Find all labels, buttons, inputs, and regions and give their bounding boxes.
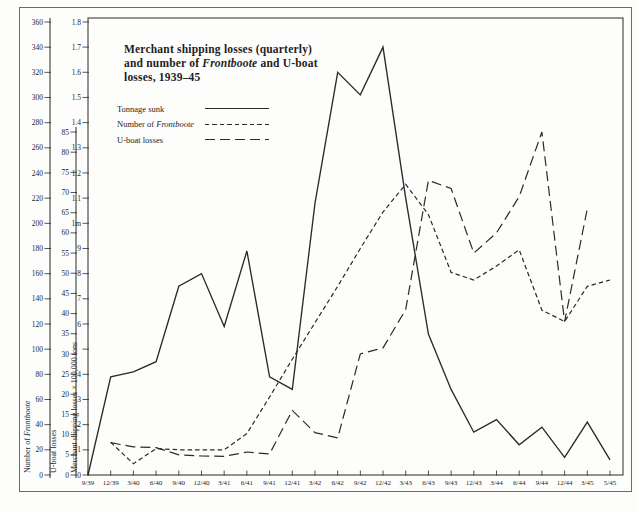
merchant-tick-label: 1.2 — [72, 169, 82, 178]
merchant-tick-label: 1.8 — [72, 18, 82, 27]
frontboote-tick-label: 160 — [32, 269, 44, 278]
merchant-tick-label: 7 — [77, 294, 81, 303]
frontboote-tick-label: 180 — [32, 244, 44, 253]
uboat-tick-label: 25 — [62, 370, 70, 379]
x-tick-label: 12/41 — [284, 479, 300, 487]
uboat-tick-label: 30 — [62, 350, 70, 359]
frontboote-tick-label: 220 — [32, 194, 44, 203]
plot-frame — [88, 18, 623, 475]
frontboote-tick-label: 0 — [39, 471, 43, 480]
uboat-tick-label: 35 — [62, 329, 70, 338]
short-dash-line-sample — [205, 124, 269, 125]
legend-label: Tonnage sunk — [117, 104, 205, 114]
x-tick-label: 9/40 — [173, 479, 186, 487]
axis-title-uboat: U-boat losses — [49, 430, 58, 473]
legend-item-tonnage-sunk: Tonnage sunk — [117, 101, 269, 117]
x-tick-label: 3/43 — [400, 479, 413, 487]
x-tick-label: 6/40 — [150, 479, 163, 487]
frontboote-line — [111, 184, 610, 463]
solid-line-sample — [205, 108, 269, 109]
x-tick-label: 3/40 — [127, 479, 140, 487]
merchant-tick-label: 8 — [77, 269, 81, 278]
merchant-tick-label: 1m — [71, 219, 81, 228]
x-tick-label: 9/39 — [82, 479, 95, 487]
axis-title-merchant: Merchant shipping losses × 100,000 tons — [70, 342, 79, 473]
x-tick-label: 3/44 — [490, 479, 503, 487]
frontboote-tick-label: 280 — [32, 118, 44, 127]
frontboote-tick-label: 340 — [32, 43, 44, 52]
x-tick-label: 6/44 — [513, 479, 526, 487]
uboat-tick-label: 80 — [62, 148, 70, 157]
axis-title-frontboote: Number of Frontboote — [23, 400, 32, 473]
uboat-tick-label: 10 — [62, 430, 70, 439]
legend-label: Number of Frontboote — [117, 119, 205, 129]
merchant-tick-label: 6 — [77, 320, 81, 329]
merchant-tick-label: 1.6 — [72, 68, 82, 77]
uboat-tick-label: 65 — [62, 208, 70, 217]
merchant-tick-label: 1.7 — [72, 43, 82, 52]
merchant-tick-label: 1.4 — [72, 118, 82, 127]
x-tick-label: 12/44 — [557, 479, 573, 487]
uboat-tick-label: 15 — [62, 410, 70, 419]
frontboote-tick-label: 200 — [32, 219, 44, 228]
x-tick-label: 3/45 — [581, 479, 594, 487]
frontboote-tick-label: 80 — [36, 370, 44, 379]
x-tick-label: 6/41 — [241, 479, 254, 487]
frontboote-tick-label: 360 — [32, 18, 44, 27]
frontboote-tick-label: 260 — [32, 143, 44, 152]
uboat-losses-line — [111, 132, 588, 456]
merchant-tick-label: 1.3 — [72, 143, 82, 152]
frontboote-tick-label: 320 — [32, 68, 44, 77]
legend: Tonnage sunk Number of Frontboote U-boat… — [117, 101, 269, 148]
uboat-tick-label: 85 — [62, 128, 70, 137]
legend-item-frontboote: Number of Frontboote — [117, 117, 269, 133]
uboat-tick-label: 60 — [62, 228, 70, 237]
x-tick-label: 3/41 — [218, 479, 231, 487]
x-tick-label: 5/45 — [604, 479, 617, 487]
x-tick-label: 9/44 — [536, 479, 549, 487]
merchant-tick-label: 1.1 — [72, 194, 82, 203]
merchant-tick-label: 1.5 — [72, 93, 82, 102]
x-tick-label: 12/39 — [103, 479, 119, 487]
frontboote-tick-label: 120 — [32, 320, 44, 329]
frontboote-tick-label: 100 — [32, 345, 44, 354]
x-tick-label: 9/42 — [354, 479, 367, 487]
uboat-tick-label: 20 — [62, 390, 70, 399]
chart-title: Merchant shipping losses (quarterly) and… — [124, 42, 354, 84]
long-dash-line-sample — [205, 139, 269, 140]
legend-label: U-boat losses — [117, 135, 205, 145]
uboat-tick-label: 50 — [62, 269, 70, 278]
x-tick-label: 9/43 — [445, 479, 458, 487]
x-tick-label: 6/43 — [422, 479, 435, 487]
frontboote-tick-label: 240 — [32, 169, 44, 178]
x-tick-label: 12/43 — [466, 479, 482, 487]
figure-page: 0204060801001201401601802002202402602803… — [0, 0, 638, 511]
frontboote-tick-label: 140 — [32, 294, 44, 303]
x-tick-label: 6/42 — [331, 479, 344, 487]
frontboote-tick-label: 60 — [36, 395, 44, 404]
frontboote-tick-label: 40 — [36, 420, 44, 429]
x-tick-label: 12/42 — [375, 479, 391, 487]
uboat-tick-label: 45 — [62, 289, 70, 298]
merchant-tick-label: 9 — [77, 244, 81, 253]
x-tick-label: 9/41 — [263, 479, 276, 487]
uboat-tick-label: 0 — [65, 471, 69, 480]
uboat-tick-label: 75 — [62, 168, 70, 177]
frontboote-tick-label: 20 — [36, 445, 44, 454]
legend-item-uboat-losses: U-boat losses — [117, 132, 269, 148]
uboat-tick-label: 70 — [62, 188, 70, 197]
x-tick-label: 12/40 — [194, 479, 210, 487]
uboat-tick-label: 55 — [62, 249, 70, 258]
x-tick-label: 3/42 — [309, 479, 322, 487]
frontboote-tick-label: 300 — [32, 93, 44, 102]
uboat-tick-label: 40 — [62, 309, 70, 318]
uboat-tick-label: 5 — [65, 450, 69, 459]
